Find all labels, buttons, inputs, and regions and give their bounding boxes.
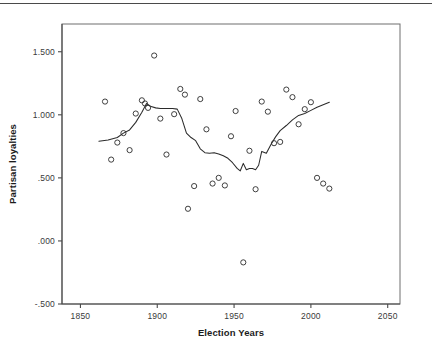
scatter-point bbox=[172, 112, 177, 117]
scatter-point bbox=[102, 99, 107, 104]
scatter-point bbox=[185, 206, 190, 211]
x-tick-label: 2050 bbox=[378, 311, 398, 321]
scatter-point bbox=[302, 107, 307, 112]
scatter-point bbox=[327, 186, 332, 191]
scatter-point bbox=[233, 108, 238, 113]
scatter-point bbox=[198, 96, 203, 101]
scatter-chart: -.500.000.5001.0001.50018501900195020002… bbox=[0, 0, 432, 343]
y-tick-label: .000 bbox=[38, 236, 55, 246]
x-tick-label: 1950 bbox=[224, 311, 244, 321]
scatter-point bbox=[222, 183, 227, 188]
scatter-point bbox=[247, 148, 252, 153]
y-tick-label: -.500 bbox=[35, 299, 55, 309]
scatter-point bbox=[321, 181, 326, 186]
scatter-point bbox=[152, 53, 157, 58]
scatter-point bbox=[284, 87, 289, 92]
scatter-point bbox=[278, 139, 283, 144]
scatter-point bbox=[178, 86, 183, 91]
scatter-point bbox=[253, 187, 258, 192]
scatter-point bbox=[164, 152, 169, 157]
scatter-points-group bbox=[102, 53, 332, 265]
scatter-point bbox=[127, 148, 132, 153]
scatter-point bbox=[133, 111, 138, 116]
y-tick-label: 1.000 bbox=[33, 110, 55, 120]
scatter-point bbox=[259, 99, 264, 104]
y-axis-title: Partisan loyalties bbox=[7, 124, 18, 204]
chart-page: -.500.000.5001.0001.50018501900195020002… bbox=[0, 0, 432, 343]
scatter-point bbox=[204, 127, 209, 132]
x-tick-label: 1900 bbox=[147, 311, 167, 321]
plot-area-frame bbox=[62, 24, 400, 304]
scatter-point bbox=[241, 260, 246, 265]
scatter-point bbox=[192, 183, 197, 188]
x-axis-title: Election Years bbox=[198, 327, 264, 338]
scatter-point bbox=[158, 116, 163, 121]
scatter-point bbox=[109, 157, 114, 162]
y-tick-label: .500 bbox=[38, 173, 55, 183]
scatter-point bbox=[296, 122, 301, 127]
scatter-point bbox=[182, 92, 187, 97]
scatter-point bbox=[290, 95, 295, 100]
y-tick-label: 1.500 bbox=[33, 47, 55, 57]
scatter-point bbox=[228, 134, 233, 139]
scatter-point bbox=[210, 181, 215, 186]
scatter-point bbox=[216, 175, 221, 180]
scatter-point bbox=[115, 140, 120, 145]
scatter-point bbox=[314, 175, 319, 180]
scatter-point bbox=[308, 100, 313, 105]
x-tick-label: 2000 bbox=[301, 311, 321, 321]
x-tick-label: 1850 bbox=[71, 311, 91, 321]
scatter-point bbox=[265, 109, 270, 114]
scatter-point bbox=[139, 98, 144, 103]
